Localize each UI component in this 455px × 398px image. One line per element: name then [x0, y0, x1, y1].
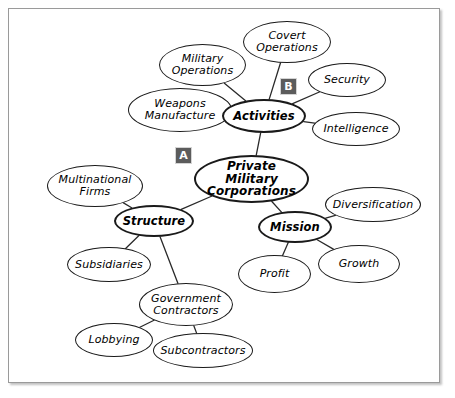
edge-activities-to-military-operations	[224, 83, 245, 101]
node-label: Activities	[229, 110, 298, 122]
edge-structure-to-subsidiaries	[126, 236, 139, 249]
marker-b-badge[interactable]: B	[280, 78, 297, 95]
node-government-contractors[interactable]: Government Contractors	[139, 283, 233, 326]
edge-mission-to-profit	[283, 243, 289, 256]
edge-center-to-mission	[272, 201, 282, 212]
edge-center-to-activities	[256, 133, 260, 155]
node-label: Profit	[256, 268, 294, 280]
node-label: Multinational Firms	[55, 174, 136, 198]
node-label: Covert Operations	[252, 30, 321, 54]
node-label: Growth	[335, 258, 384, 270]
edge-mission-to-growth	[317, 240, 333, 249]
hub-node-structure[interactable]: Structure	[114, 205, 194, 237]
node-weapons-manufacture[interactable]: Weapons Manufacture	[128, 88, 232, 132]
node-security[interactable]: Security	[308, 63, 386, 97]
marker-a-badge[interactable]: A	[175, 147, 192, 164]
node-intelligence[interactable]: Intelligence	[312, 112, 400, 146]
node-growth[interactable]: Growth	[318, 245, 400, 283]
node-covert-operations[interactable]: Covert Operations	[243, 21, 331, 63]
node-label: Subcontractors	[156, 345, 249, 357]
edge-government-contractors-to-lobbying	[140, 320, 154, 327]
node-label: Weapons Manufacture	[141, 98, 220, 122]
node-multinational-firms[interactable]: Multinational Firms	[47, 165, 143, 207]
center-node-center[interactable]: Private Military Corporations	[194, 155, 309, 203]
node-label: Diversification	[329, 199, 417, 211]
node-label: Mission	[266, 221, 324, 233]
hub-node-activities[interactable]: Activities	[222, 99, 306, 133]
node-label: Lobbying	[84, 334, 143, 346]
node-subcontractors[interactable]: Subcontractors	[153, 333, 253, 368]
edge-activities-to-covert-operations	[269, 63, 280, 99]
node-label: Military Operations	[168, 53, 237, 77]
node-label: Security	[320, 74, 374, 86]
edge-structure-to-government-contractors	[160, 237, 178, 284]
node-label: Structure	[119, 215, 190, 227]
node-label: Subsidiaries	[71, 259, 147, 271]
node-label: Government Contractors	[147, 293, 225, 317]
node-military-operations[interactable]: Military Operations	[159, 44, 246, 86]
node-diversification[interactable]: Diversification	[325, 187, 421, 222]
hub-node-mission[interactable]: Mission	[258, 211, 332, 243]
concept-map-diagram: Covert OperationsMilitary OperationsWeap…	[0, 0, 455, 398]
node-profit[interactable]: Profit	[238, 255, 311, 293]
node-lobbying[interactable]: Lobbying	[75, 323, 153, 357]
node-label: Private Military Corporations	[196, 160, 307, 199]
node-subsidiaries[interactable]: Subsidiaries	[67, 247, 151, 282]
node-label: Intelligence	[319, 123, 392, 135]
edge-mission-to-diversification	[326, 215, 336, 218]
edge-government-contractors-to-subcontractors	[194, 326, 197, 333]
